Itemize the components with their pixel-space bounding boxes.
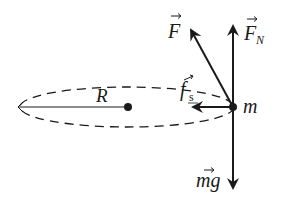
static-friction-subscript: s: [189, 90, 194, 104]
radius-label: R: [95, 85, 108, 106]
normal-force-label: F: [243, 22, 257, 44]
weight-label: mg: [196, 169, 220, 192]
applied-force-vector-arrow-icon: [171, 14, 181, 19]
applied-force-label: F: [167, 20, 181, 42]
free-body-diagram: R F F N f s m mg: [0, 0, 281, 201]
center-point: [124, 103, 132, 111]
normal-force-subscript: N: [255, 33, 265, 47]
normal-force-vector-arrow-icon: [247, 17, 257, 22]
mass-label: m: [243, 95, 257, 117]
static-friction-label: f: [180, 78, 188, 101]
